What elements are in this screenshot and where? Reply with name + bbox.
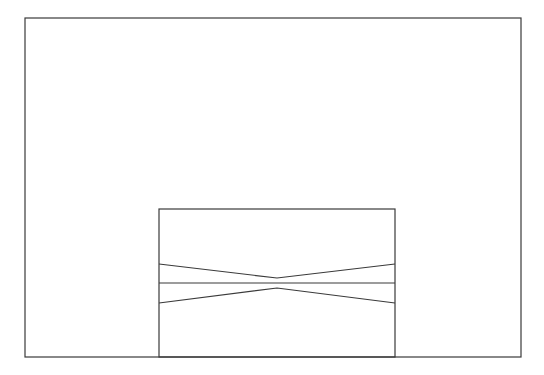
diagram-canvas [0,0,544,375]
upper-v-line [159,264,395,278]
outer-frame [25,18,521,357]
lower-v-line [159,288,395,303]
